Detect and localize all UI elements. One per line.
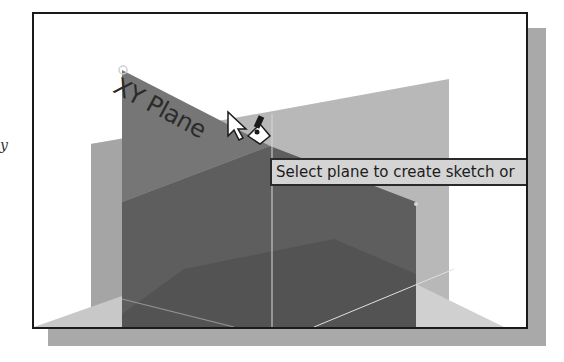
stray-glyph: y bbox=[0, 137, 8, 153]
floor-wedge-right bbox=[416, 284, 504, 327]
plane-corner-marker bbox=[414, 202, 418, 206]
graphics-viewport[interactable]: XY Plane Select plane to create sketch o… bbox=[32, 12, 528, 329]
select-plane-cursor-icon bbox=[226, 110, 278, 150]
tooltip: Select plane to create sketch or bbox=[270, 158, 528, 186]
